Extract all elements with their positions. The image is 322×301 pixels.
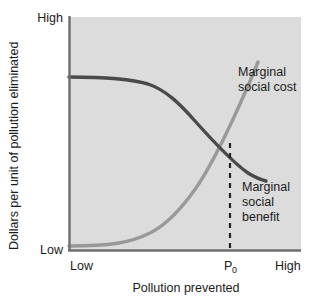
x-axis-title: Pollution prevented <box>132 281 239 295</box>
marginal-social-cost-label-line1: Marginal <box>238 65 286 79</box>
marginal-social-benefit-label-line1: Marginal <box>242 180 290 194</box>
x-axis-equilibrium-sublabel: 0 <box>232 265 237 275</box>
x-axis-low-label: Low <box>70 259 94 273</box>
chart-svg: High Low Dollars per unit of pollution e… <box>0 0 322 301</box>
marginal-social-cost-label-line2: social cost <box>238 80 297 94</box>
economics-chart-figure: High Low Dollars per unit of pollution e… <box>0 0 322 301</box>
y-axis-high-label: High <box>37 11 63 25</box>
marginal-social-benefit-label-line2: social <box>242 195 274 209</box>
y-axis-title: Dollars per unit of pollution eliminated <box>7 42 21 250</box>
y-axis-low-label: Low <box>40 243 64 257</box>
marginal-social-benefit-label-line3: benefit <box>242 210 280 224</box>
x-axis-high-label: High <box>275 259 301 273</box>
